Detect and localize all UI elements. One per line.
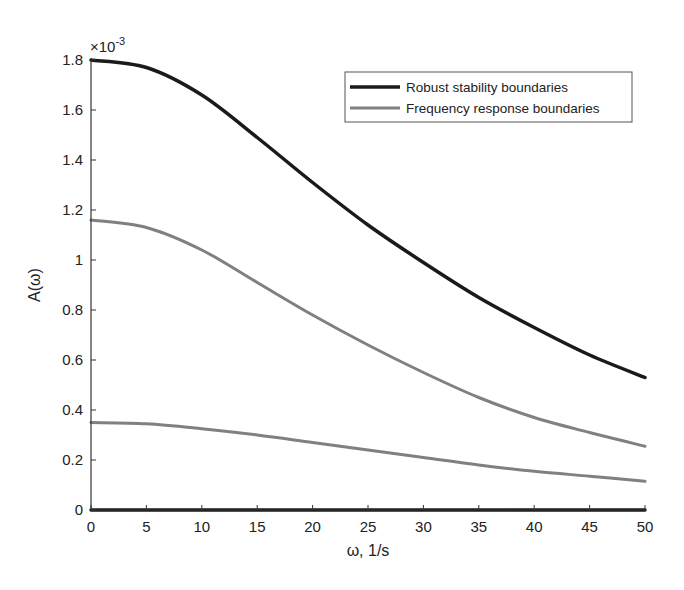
x-axis-label: ω, 1/s — [347, 542, 390, 559]
y-tick-label: 0.4 — [62, 401, 83, 418]
legend: Robust stability boundaries Frequency re… — [345, 72, 632, 122]
axes — [91, 60, 645, 510]
x-tick-label: 15 — [249, 518, 266, 535]
y-tick-label: 0 — [75, 501, 83, 518]
y-tick-label: 1.4 — [62, 151, 83, 168]
x-tick-label: 10 — [193, 518, 210, 535]
y-tick-label: 0.2 — [62, 451, 83, 468]
legend-label-robust: Robust stability boundaries — [406, 80, 568, 95]
y-axis-label: A(ω) — [26, 268, 43, 302]
series-line-3 — [91, 423, 645, 482]
y-tick-label: 0.8 — [62, 301, 83, 318]
x-tick-label: 40 — [526, 518, 543, 535]
x-tick-label: 50 — [637, 518, 654, 535]
x-tick-label: 25 — [360, 518, 377, 535]
x-tick-label: 35 — [470, 518, 487, 535]
series-line-2 — [91, 220, 645, 446]
x-tick-label: 5 — [142, 518, 150, 535]
y-tick-label: 1.2 — [62, 201, 83, 218]
x-tick-label: 30 — [415, 518, 432, 535]
y-tick-label: 0.6 — [62, 351, 83, 368]
legend-label-frequency: Frequency response boundaries — [406, 101, 600, 116]
y-exponent-label: ×10-3 — [90, 35, 125, 55]
y-tick-label: 1.8 — [62, 51, 83, 68]
chart: 05101520253035404550 00.20.40.60.811.21.… — [0, 0, 684, 590]
y-tick-label: 1.6 — [62, 101, 83, 118]
plot-lines — [91, 60, 645, 510]
y-tick-label: 1 — [75, 251, 83, 268]
x-tick-label: 0 — [87, 518, 95, 535]
x-tick-label: 45 — [581, 518, 598, 535]
x-tick-label: 20 — [304, 518, 321, 535]
